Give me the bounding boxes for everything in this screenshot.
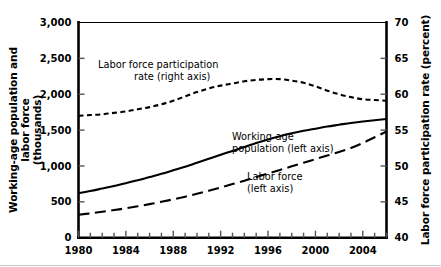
- series-line-0: [79, 79, 387, 116]
- y-axis-left-title-line2: labor force: [19, 98, 31, 161]
- series-annotation-2: Labor force: [247, 171, 303, 182]
- series-annotation-2-line2: (left axis): [247, 183, 293, 194]
- line-chart: 05001,0001,5002,0002,5003,000 4045505560…: [0, 0, 441, 267]
- series-annotation-0: Labor force participation: [98, 59, 219, 70]
- y-tick-label-left: 2,500: [40, 53, 72, 64]
- series-annotation-0-line2: rate (right axis): [134, 71, 210, 82]
- y-tick-label-left: 3,000: [40, 17, 72, 28]
- y-tick-label-right: 60: [395, 89, 409, 100]
- y-tick-label-left: 500: [51, 196, 72, 207]
- y-tick-label-right: 40: [395, 232, 409, 243]
- y-tick-label-left: 2,000: [40, 89, 72, 100]
- x-tick-label: 1996: [254, 245, 282, 256]
- x-tick-label: 2004: [349, 245, 377, 256]
- y-tick-label-left: 1,000: [40, 161, 72, 172]
- y-axis-left-tick-labels: 05001,0001,5002,0002,5003,000: [40, 17, 72, 243]
- y-axis-left-title-line3: (thousands): [31, 95, 43, 165]
- x-tick-label: 1992: [207, 245, 235, 256]
- y-tick-label-left: 0: [65, 232, 72, 243]
- y-axis-right-title: Labor force participation rate (percent): [419, 15, 431, 245]
- x-tick-label: 2000: [302, 245, 330, 256]
- y-axis-left-title-line1: Working-age population and: [7, 47, 19, 213]
- x-tick-label: 1980: [65, 245, 93, 256]
- x-axis-tick-labels: 1980198419881992199620002004: [65, 245, 377, 256]
- chart-figure: 05001,0001,5002,0002,5003,000 4045505560…: [0, 0, 441, 267]
- y-tick-label-right: 45: [395, 196, 409, 207]
- y-tick-label-right: 55: [395, 125, 409, 136]
- x-tick-label: 1988: [159, 245, 187, 256]
- y-tick-label-left: 1,500: [40, 125, 72, 136]
- y-tick-label-right: 65: [395, 53, 409, 64]
- y-tick-label-right: 70: [395, 17, 409, 28]
- plot-axes: [77, 21, 388, 239]
- x-tick-label: 1984: [112, 245, 140, 256]
- y-tick-label-right: 50: [395, 161, 409, 172]
- series-annotations: Labor force participationrate (right axi…: [98, 59, 334, 194]
- y-axis-right-tick-labels: 40455055606570: [395, 17, 409, 243]
- series-annotation-1-line2: population (left axis): [232, 143, 334, 154]
- series-annotation-1: Working-age: [232, 131, 294, 142]
